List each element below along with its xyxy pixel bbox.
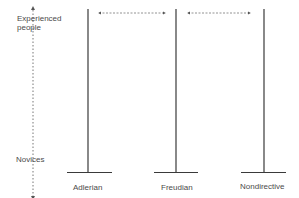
- axis-arrow-down-icon: [31, 196, 35, 198]
- column-label-nondirective: Nondirective: [240, 182, 284, 191]
- axis-label-people: people: [17, 23, 41, 32]
- diagram-canvas: [0, 0, 299, 198]
- column-nondirective: [241, 9, 286, 173]
- axis-label-experienced: Experienced: [17, 14, 61, 23]
- column-label-freudian: Freudian: [161, 183, 193, 192]
- column-label-adlerian: Adlerian: [73, 183, 102, 192]
- column-adlerian: [67, 9, 112, 173]
- axis-label-novices: Novices: [16, 155, 44, 164]
- column-freudian: [154, 9, 198, 173]
- experience-axis: [31, 6, 35, 198]
- axis-arrow-up-icon: [31, 6, 35, 10]
